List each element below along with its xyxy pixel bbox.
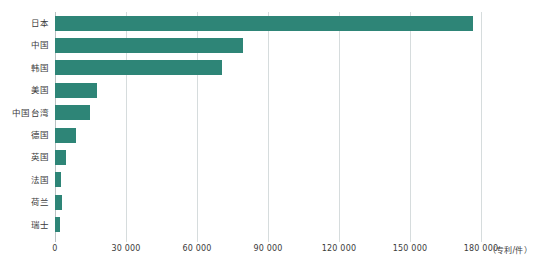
- bar-track: [55, 169, 481, 191]
- category-label: 美国: [31, 79, 55, 101]
- category-label: 日本: [31, 12, 55, 34]
- bar-track: [55, 102, 481, 124]
- bar-chart: 日本中国韩国美国中国台湾德国英国法国荷兰瑞士 030 00060 00090 0…: [0, 0, 544, 270]
- axis-unit-label: （专利/件）: [488, 244, 532, 255]
- bar[interactable]: [55, 128, 76, 143]
- bar-track: [55, 214, 481, 236]
- category-label: 瑞士: [31, 214, 55, 236]
- bar-row: 韩国: [0, 57, 544, 79]
- bar-track: [55, 57, 481, 79]
- bar[interactable]: [55, 60, 222, 75]
- bar-track: [55, 146, 481, 168]
- bar-row: 日本: [0, 12, 544, 34]
- bar-row: 中国: [0, 34, 544, 56]
- bar-row: 中国台湾: [0, 102, 544, 124]
- bar[interactable]: [55, 38, 243, 53]
- x-tick-label: 90 000: [253, 244, 282, 253]
- bar-row: 瑞士: [0, 214, 544, 236]
- category-label: 中国: [31, 34, 55, 56]
- bar[interactable]: [55, 16, 473, 31]
- bar-row: 法国: [0, 169, 544, 191]
- category-label: 韩国: [31, 57, 55, 79]
- category-label: 荷兰: [31, 191, 55, 213]
- bar-rows: 日本中国韩国美国中国台湾德国英国法国荷兰瑞士: [0, 12, 544, 236]
- bar-row: 德国: [0, 124, 544, 146]
- x-tick-label: 120 000: [322, 244, 356, 253]
- bar[interactable]: [55, 195, 62, 210]
- category-label: 英国: [31, 146, 55, 168]
- category-label: 法国: [31, 169, 55, 191]
- bar-track: [55, 34, 481, 56]
- category-label: 德国: [31, 124, 55, 146]
- x-tick-label: 60 000: [182, 244, 211, 253]
- bar[interactable]: [55, 150, 66, 165]
- bar-track: [55, 191, 481, 213]
- bar-row: 英国: [0, 146, 544, 168]
- x-tick-label: 30 000: [111, 244, 140, 253]
- bar-track: [55, 124, 481, 146]
- category-label: 中国台湾: [12, 102, 55, 124]
- bar-row: 美国: [0, 79, 544, 101]
- bar[interactable]: [55, 217, 60, 232]
- bar-track: [55, 12, 481, 34]
- bar[interactable]: [55, 83, 97, 98]
- bar-row: 荷兰: [0, 191, 544, 213]
- bar[interactable]: [55, 105, 90, 120]
- x-axis: 030 00060 00090 000120 000150 000180 000: [55, 244, 481, 264]
- bar[interactable]: [55, 172, 61, 187]
- x-tick-label: 0: [52, 244, 57, 253]
- x-tick-label: 150 000: [393, 244, 427, 253]
- bar-track: [55, 79, 481, 101]
